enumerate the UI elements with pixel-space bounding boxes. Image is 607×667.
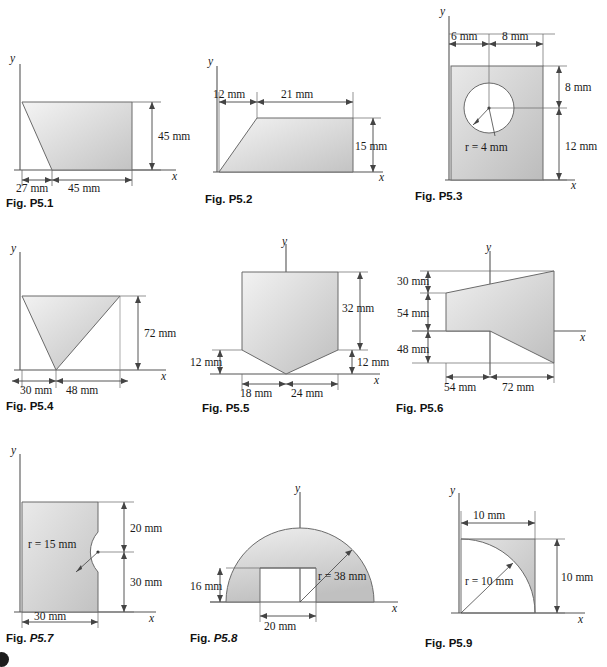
x-axis-label: x bbox=[373, 374, 380, 386]
caption-number: P5.4 bbox=[30, 400, 54, 412]
figure-p5-4: y x 72 mm 30 mm 48 mm Fig. P5.4 bbox=[6, 248, 186, 412]
caption-p5-6: Fig. P5.6 bbox=[396, 402, 600, 414]
dim-label-48mm: 48 mm bbox=[66, 384, 98, 396]
dim-label-45mm-vertical: 45 mm bbox=[158, 130, 190, 142]
dim-label-radius-4mm: r = 4 mm bbox=[465, 141, 508, 153]
dim-label-8mm-horizontal: 8 mm bbox=[502, 30, 529, 42]
dim-label-30mm: 30 mm bbox=[20, 384, 52, 396]
shape-pentagon bbox=[242, 272, 338, 374]
dim-label-16mm: 16 mm bbox=[190, 580, 222, 592]
caption-p5-7: Fig. P5.7 bbox=[6, 632, 186, 644]
caption-number: P5.7 bbox=[30, 632, 54, 644]
dim-label-10mm-horizontal: 10 mm bbox=[473, 509, 505, 521]
dim-label-32mm: 32 mm bbox=[342, 302, 374, 314]
x-axis-label: x bbox=[171, 170, 178, 182]
caption-number: P5.5 bbox=[226, 402, 250, 414]
y-axis-label: y bbox=[439, 5, 446, 18]
caption-p5-3: Fig. P5.3 bbox=[415, 190, 600, 202]
caption-prefix: Fig. bbox=[202, 402, 222, 414]
dim-label-8mm-vertical: 8 mm bbox=[565, 81, 592, 93]
y-axis-label: y bbox=[281, 235, 288, 248]
caption-prefix: Fig. bbox=[396, 402, 416, 414]
figure-p5-9: y x 10 mm 10 mm r = 10 mm Fig. P5.9 bbox=[415, 485, 600, 649]
dim-label-10mm-vertical: 10 mm bbox=[561, 571, 593, 583]
caption-number: P5.1 bbox=[30, 197, 54, 209]
dim-label-30mm-horizontal: 30 mm bbox=[34, 610, 66, 622]
y-axis-label: y bbox=[449, 484, 456, 497]
figure-p5-5: y x 32 mm 12 mm 12 mm 18 mm 24 mm Fi bbox=[190, 240, 395, 414]
figure-p5-1: y x 45 mm 27 mm 45 mm Fig. P5.1 bbox=[6, 58, 196, 209]
dim-label-radius-10mm: r = 10 mm bbox=[465, 575, 513, 587]
x-axis-label: x bbox=[148, 612, 155, 624]
caption-p5-9: Fig. P5.9 bbox=[425, 637, 600, 649]
dim-label-20mm: 20 mm bbox=[130, 522, 162, 534]
dim-label-54mm-horizontal: 54 mm bbox=[444, 381, 476, 393]
caption-p5-2: Fig. P5.2 bbox=[205, 193, 395, 205]
y-axis-label: y bbox=[485, 241, 492, 254]
shape-rectangle-with-notch bbox=[22, 502, 98, 612]
figure-p5-6: y x 30 mm 54 mm 48 mm 54 mm 72 mm Fi bbox=[390, 245, 600, 414]
caption-number: P5.6 bbox=[420, 402, 444, 414]
caption-p5-5: Fig. P5.5 bbox=[202, 402, 395, 414]
y-axis-label: y bbox=[294, 482, 301, 495]
x-axis-label: x bbox=[577, 613, 584, 625]
dim-label-30mm: 30 mm bbox=[397, 275, 429, 287]
dim-label-18mm: 18 mm bbox=[240, 387, 272, 399]
dim-label-45mm-horizontal: 45 mm bbox=[68, 182, 100, 194]
caption-number: P5.3 bbox=[439, 190, 463, 202]
y-axis-label: y bbox=[10, 444, 17, 457]
shape-trapezoid bbox=[22, 102, 132, 170]
x-axis-label: x bbox=[160, 370, 167, 382]
caption-prefix: Fig. bbox=[425, 637, 445, 649]
dim-label-12mm: 12 mm bbox=[565, 140, 597, 152]
dim-label-30mm-vertical: 30 mm bbox=[130, 576, 162, 588]
figure-p5-8: y x 16 mm 20 mm r = 38 mm Fig. P5.8 bbox=[190, 480, 405, 644]
dim-label-12mm-left: 12 mm bbox=[190, 356, 222, 368]
dim-label-54mm-vertical: 54 mm bbox=[397, 307, 429, 319]
caption-prefix: Fig. bbox=[205, 193, 225, 205]
caption-p5-1: Fig. P5.1 bbox=[6, 197, 196, 209]
caption-number: P5.2 bbox=[229, 193, 253, 205]
dim-label-15mm: 15 mm bbox=[355, 140, 387, 152]
caption-prefix: Fig. bbox=[190, 632, 210, 644]
shape-trapezoid bbox=[219, 118, 353, 172]
x-axis-label: x bbox=[391, 602, 398, 614]
caption-prefix: Fig. bbox=[6, 632, 26, 644]
caption-number: P5.9 bbox=[449, 637, 473, 649]
figure-p5-3: y x 6 mm 8 mm 8 mm 12 mm bbox=[415, 8, 600, 202]
dim-label-48mm: 48 mm bbox=[397, 343, 429, 355]
dim-label-20mm: 20 mm bbox=[264, 620, 296, 632]
dim-label-24mm: 24 mm bbox=[291, 387, 323, 399]
dim-label-21mm: 21 mm bbox=[281, 88, 313, 100]
figure-p5-7: y x 20 mm 30 mm r = 15 mm 30 mm Fig. P5.… bbox=[6, 450, 186, 644]
dim-label-radius-38mm: r = 38 mm bbox=[318, 570, 366, 582]
y-axis-label: y bbox=[10, 242, 17, 255]
page-corner-mark bbox=[0, 652, 9, 667]
caption-p5-4: Fig. P5.4 bbox=[6, 400, 186, 412]
dim-label-12mm: 12 mm bbox=[213, 88, 245, 100]
y-axis-label: y bbox=[207, 55, 214, 68]
dim-label-12mm-right: 12 mm bbox=[357, 356, 389, 368]
dim-label-72mm: 72 mm bbox=[502, 381, 534, 393]
caption-p5-8: Fig. P5.8 bbox=[190, 632, 405, 644]
figure-p5-2: y x 12 mm 21 mm 15 mm Fig. P5.2 bbox=[205, 62, 395, 205]
dim-label-6mm: 6 mm bbox=[451, 30, 478, 42]
shape-quadrilateral bbox=[446, 271, 554, 363]
x-axis-label: x bbox=[378, 171, 385, 183]
x-axis-label: x bbox=[570, 179, 577, 191]
x-axis-label: x bbox=[579, 331, 586, 343]
dim-label-radius-15mm: r = 15 mm bbox=[28, 538, 76, 550]
dim-label-72mm: 72 mm bbox=[144, 327, 176, 339]
caption-prefix: Fig. bbox=[6, 197, 26, 209]
caption-number: P5.8 bbox=[214, 632, 238, 644]
shape-inverted-triangle bbox=[22, 296, 120, 370]
caption-prefix: Fig. bbox=[415, 190, 435, 202]
dim-label-27mm: 27 mm bbox=[16, 182, 48, 194]
y-axis-label: y bbox=[9, 52, 16, 65]
caption-prefix: Fig. bbox=[6, 400, 26, 412]
